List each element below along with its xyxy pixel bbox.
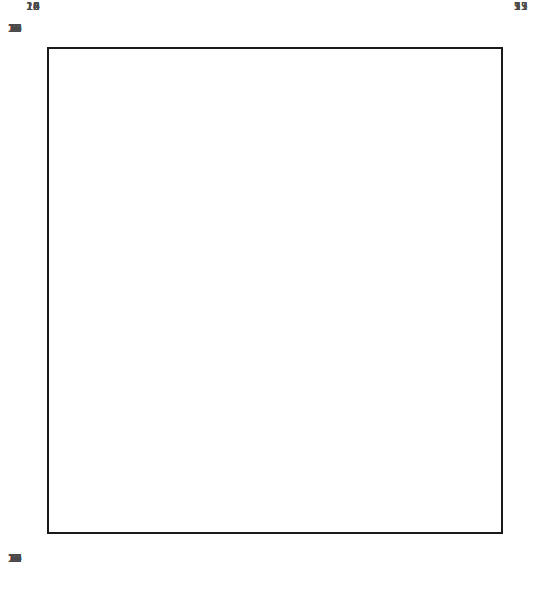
- chart-grid: [47, 47, 503, 534]
- stitch-symbol-layer: [49, 49, 501, 532]
- knitting-chart: 2019181716151413121110987654321 20191817…: [0, 0, 548, 592]
- row-label-left: 2: [14, 0, 40, 12]
- cable-cross-symbol: [49, 49, 501, 532]
- row-label-right: 1: [514, 0, 540, 12]
- column-label: 1: [0, 22, 30, 34]
- column-label: 1: [0, 552, 30, 564]
